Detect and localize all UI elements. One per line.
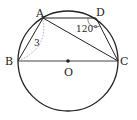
label-a: A — [35, 7, 45, 20]
label-c: C — [120, 55, 128, 68]
label-angle-d: 120° — [76, 24, 98, 34]
label-d: D — [96, 6, 105, 19]
geometry-diagram: A D B C O 3 120° — [0, 0, 137, 120]
label-ab-length: 3 — [34, 38, 40, 48]
center-dot — [66, 59, 70, 63]
label-o: O — [64, 66, 73, 79]
label-b: B — [5, 55, 13, 68]
